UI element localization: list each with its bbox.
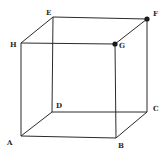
vertex-label-b: B <box>118 141 124 150</box>
edge-eh <box>21 17 53 43</box>
vertex-label-g: G <box>119 41 125 50</box>
vertex-label-d: D <box>56 101 62 110</box>
vertex-label-e: E <box>46 8 51 17</box>
edge-hg <box>21 43 115 44</box>
vertex-label-c: C <box>153 104 159 113</box>
vertex-dot-g <box>112 41 117 46</box>
edge-bc <box>116 112 147 138</box>
vertex-label-a: A <box>6 138 13 147</box>
vertex-label-h: H <box>10 40 17 49</box>
edge-bg <box>115 44 116 138</box>
cube-diagram: ABCDEFGH <box>0 0 167 156</box>
edge-da <box>21 112 52 136</box>
edge-ab <box>21 136 116 138</box>
vertex-label-f: F <box>153 9 158 18</box>
vertex-labels: ABCDEFGH <box>6 8 159 150</box>
cube-edges <box>21 17 147 138</box>
vertex-dot-f <box>144 16 149 21</box>
edge-fe <box>53 17 147 19</box>
edge-de <box>52 17 53 112</box>
